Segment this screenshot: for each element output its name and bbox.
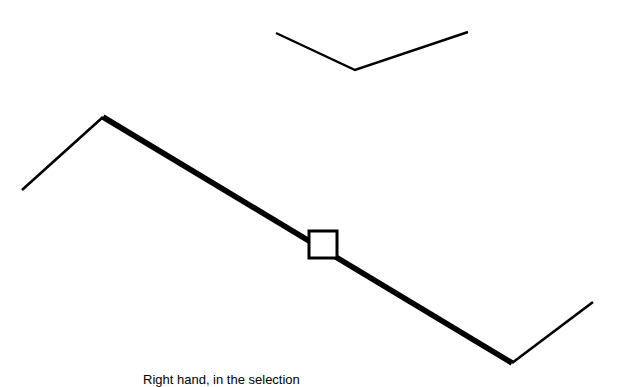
diagram-svg <box>0 0 623 387</box>
selection-handle-square[interactable] <box>309 231 337 258</box>
canvas-background <box>0 0 623 387</box>
diagram-canvas: Right hand, in the selection <box>0 0 623 387</box>
